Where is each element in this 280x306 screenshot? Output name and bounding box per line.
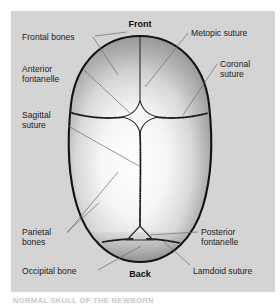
figure-caption: NORMAL SKULL OF THE NEWBORN — [13, 296, 154, 305]
label-lamdoid-suture: Lamdoid suture — [193, 266, 252, 276]
label-sagittal-suture-line1: Sagittal — [22, 110, 51, 120]
label-parietal-bones-line2: bones — [22, 237, 45, 247]
label-occipital-bone: Occipital bone — [22, 266, 77, 276]
label-parietal-bones-line1: Parietal — [22, 227, 51, 237]
orientation-label-back: Back — [129, 269, 152, 279]
label-anterior-fontanelle-line1: Anterior — [22, 64, 52, 74]
label-posterior-fontanelle-line2: fontanelle — [201, 237, 238, 247]
label-coronal-suture-line1: Coronal — [220, 59, 250, 69]
orientation-label-front: Front — [129, 19, 152, 29]
newborn-skull-diagram: Front Back Frontal bones Anterior fontan… — [0, 0, 280, 306]
label-sagittal-suture-line2: suture — [22, 120, 46, 130]
label-frontal-bones: Frontal bones — [22, 32, 75, 42]
label-coronal-suture-line2: suture — [220, 69, 244, 79]
label-posterior-fontanelle-line1: Posterior — [201, 227, 236, 237]
label-metopic-suture: Metopic suture — [191, 28, 248, 38]
label-anterior-fontanelle-line2: fontanelle — [22, 74, 59, 84]
